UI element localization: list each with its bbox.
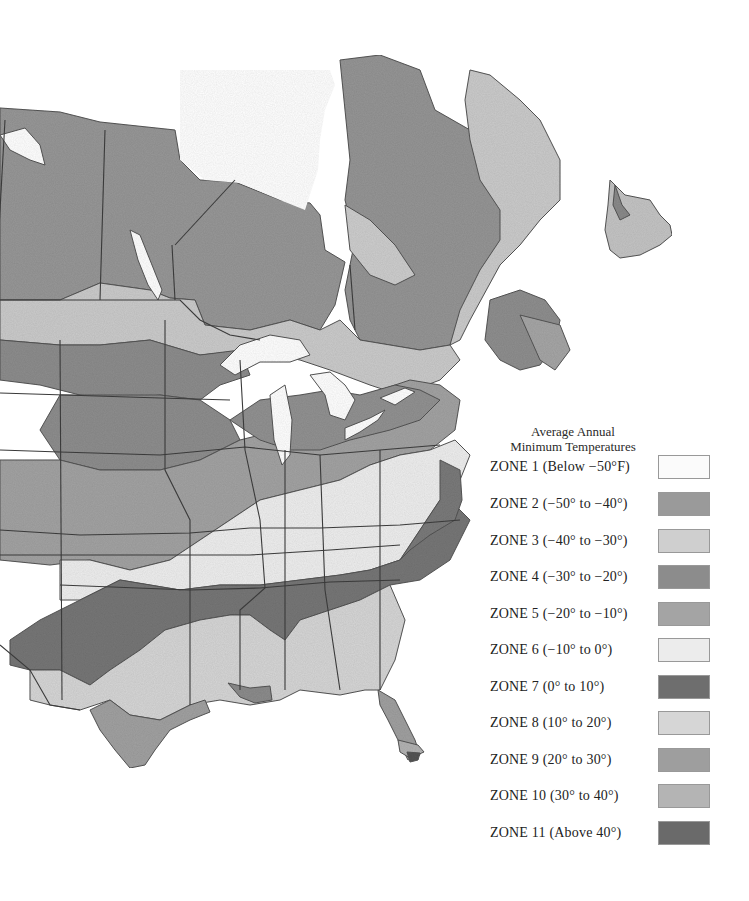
legend-swatch: [658, 455, 710, 479]
legend-title-line-2: Minimum Temperatures: [490, 439, 656, 454]
legend-label: ZONE 2 (−50° to −40°): [490, 496, 628, 512]
legend-row-zone-10: ZONE 10 (30° to 40°): [490, 784, 720, 810]
legend-swatch: [658, 675, 710, 699]
legend-row-zone-8: ZONE 8 (10° to 20°): [490, 711, 720, 737]
legend-swatch: [658, 821, 710, 845]
legend-label: ZONE 8 (10° to 20°): [490, 715, 612, 731]
legend-row-zone-4: ZONE 4 (−30° to −20°): [490, 565, 720, 591]
legend-label: ZONE 10 (30° to 40°): [490, 788, 619, 804]
legend-swatch: [658, 784, 710, 808]
legend-row-zone-3: ZONE 3 (−40° to −30°): [490, 529, 720, 555]
legend-label: ZONE 11 (Above 40°): [490, 825, 621, 841]
legend-row-zone-1: ZONE 1 (Below −50°F): [490, 455, 720, 481]
legend-row-zone-6: ZONE 6 (−10° to 0°): [490, 638, 720, 664]
legend-label: ZONE 9 (20° to 30°): [490, 752, 612, 768]
legend-swatch: [658, 492, 710, 516]
legend-title-line-1: Average Annual: [490, 424, 656, 439]
legend-label: ZONE 1 (Below −50°F): [490, 459, 630, 475]
legend-swatch: [658, 602, 710, 626]
legend-label: ZONE 3 (−40° to −30°): [490, 533, 628, 549]
legend-row-zone-11: ZONE 11 (Above 40°): [490, 821, 720, 847]
legend-label: ZONE 5 (−20° to −10°): [490, 606, 628, 622]
legend-row-zone-7: ZONE 7 (0° to 10°): [490, 675, 720, 701]
legend-swatch: [658, 711, 710, 735]
florida-zone-11: [407, 752, 420, 762]
legend-label: ZONE 6 (−10° to 0°): [490, 642, 612, 658]
legend-row-zone-9: ZONE 9 (20° to 30°): [490, 748, 720, 774]
legend-swatch: [658, 748, 710, 772]
legend-swatch: [658, 529, 710, 553]
legend-title: Average Annual Minimum Temperatures: [490, 424, 656, 454]
legend-row-zone-2: ZONE 2 (−50° to −40°): [490, 492, 720, 518]
legend-label: ZONE 4 (−30° to −20°): [490, 569, 628, 585]
legend-row-zone-5: ZONE 5 (−20° to −10°): [490, 602, 720, 628]
legend-swatch: [658, 638, 710, 662]
legend-swatch: [658, 565, 710, 589]
legend-label: ZONE 7 (0° to 10°): [490, 679, 604, 695]
